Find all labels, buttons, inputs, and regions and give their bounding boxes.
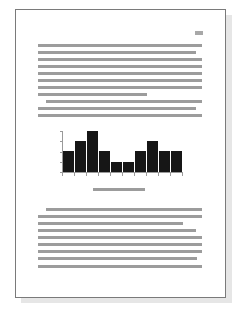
chart-bar [111,162,122,172]
text-line [38,107,196,110]
text-line [38,229,196,232]
text-line [38,215,202,218]
chart-y-tick [60,141,62,142]
text-line [38,72,202,75]
chart-bar [99,151,110,172]
chart-bar [171,151,182,172]
chart-x-tick [146,173,147,176]
text-line [38,114,202,117]
chart-bar [63,151,74,172]
chart-x-tick [170,173,171,176]
page-number [195,31,203,35]
text-line [46,208,202,211]
chart-x-tick [182,173,183,176]
chart-x-tick [158,173,159,176]
text-line [38,236,202,239]
chart-y-tick [60,131,62,132]
chart-x-tick [98,173,99,176]
text-line [38,243,202,246]
text-line [38,58,202,61]
chart-bar [147,141,158,172]
figure-caption [93,188,145,191]
chart-bar [135,151,146,172]
text-line [38,51,196,54]
chart-x-tick [122,173,123,176]
chart-y-tick [60,152,62,153]
text-line [38,250,202,253]
text-line [38,79,202,82]
chart-bar [75,141,86,172]
chart-x-tick [74,173,75,176]
text-line [38,222,183,225]
text-line [46,100,202,103]
chart-bar [123,162,134,172]
chart-bar [87,131,98,172]
text-line [38,65,202,68]
chart-x-tick [110,173,111,176]
text-line [38,93,147,96]
chart-y-tick [60,162,62,163]
chart-x-tick [134,173,135,176]
text-line [38,265,202,268]
text-line [38,44,202,47]
text-line [38,257,197,260]
text-line [38,86,202,89]
chart-x-tick [86,173,87,176]
chart-x-tick [62,173,63,176]
chart-bar [159,151,170,172]
